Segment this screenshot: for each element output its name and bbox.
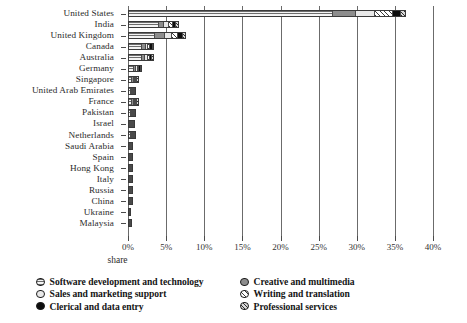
bar-row[interactable] — [128, 207, 440, 218]
y-axis-tick-mark — [121, 69, 126, 70]
y-axis-tick-mark — [121, 91, 126, 92]
bar-row[interactable] — [128, 163, 440, 174]
bar-row[interactable] — [128, 41, 440, 52]
bars-layer — [128, 8, 440, 234]
stacked-bar[interactable] — [128, 21, 179, 29]
legend-column-2: Creative and multimedia Writing and tran… — [240, 276, 355, 322]
stacked-bar[interactable] — [128, 142, 133, 150]
bar-segment[interactable] — [393, 11, 401, 17]
bar-row[interactable] — [128, 118, 440, 129]
bar-segment[interactable] — [132, 165, 133, 171]
gray-circle-icon — [240, 278, 249, 287]
bar-row[interactable] — [128, 107, 440, 118]
stacked-bar[interactable] — [128, 219, 132, 227]
stacked-bar[interactable] — [128, 87, 136, 95]
bar-row[interactable] — [128, 185, 440, 196]
bar-row[interactable] — [128, 196, 440, 207]
x-axis-tick-label: 5% — [160, 242, 172, 252]
bar-segment[interactable] — [129, 44, 142, 50]
bar-segment[interactable] — [129, 55, 142, 61]
bar-segment[interactable] — [356, 11, 375, 17]
x-axis-tick-mark — [281, 236, 282, 241]
y-axis-tick-label: Italy — [0, 174, 118, 185]
bar-segment[interactable] — [131, 220, 132, 226]
legend-item-label: Clerical and data entry — [50, 301, 144, 312]
bar-row[interactable] — [128, 63, 440, 74]
bar-segment[interactable] — [183, 33, 185, 39]
stacked-bar[interactable] — [128, 10, 406, 18]
bar-segment[interactable] — [165, 33, 172, 39]
stacked-bar[interactable] — [128, 43, 154, 51]
bar-segment[interactable] — [129, 33, 155, 39]
bar-row[interactable] — [128, 130, 440, 141]
bar-row[interactable] — [128, 141, 440, 152]
y-axis-tick-mark — [121, 223, 126, 224]
legend-item[interactable]: Writing and translation — [240, 288, 355, 300]
bar-row[interactable] — [128, 8, 440, 19]
legend-item-label: Sales and marketing support — [50, 288, 167, 299]
stacked-bar[interactable] — [128, 32, 186, 40]
bar-row[interactable] — [128, 96, 440, 107]
stacked-bar[interactable] — [128, 208, 131, 216]
legend-item[interactable]: Creative and multimedia — [240, 276, 355, 288]
legend-item-label: Professional services — [254, 301, 337, 312]
legend-item[interactable]: Professional services — [240, 300, 355, 312]
legend-item-label: Software development and technology — [50, 276, 204, 287]
legend-item[interactable]: Clerical and data entry — [36, 300, 240, 312]
bar-row[interactable] — [128, 85, 440, 96]
y-axis-labels: United StatesIndiaUnited KingdomCanadaAu… — [0, 8, 118, 229]
y-axis-tick-label: United Kingdom — [0, 30, 118, 41]
bar-segment[interactable] — [155, 33, 165, 39]
stacked-bar[interactable] — [128, 153, 133, 161]
legend-column-1: Software development and technology Sale… — [36, 276, 240, 322]
bar-segment[interactable] — [375, 11, 393, 17]
y-axis-tick-label: Singapore — [0, 74, 118, 85]
stacked-bar[interactable] — [128, 186, 133, 194]
stacked-bar[interactable] — [128, 175, 133, 183]
bar-segment[interactable] — [141, 66, 142, 72]
bar-row[interactable] — [128, 52, 440, 63]
stacked-bar[interactable] — [128, 65, 142, 73]
y-axis-tick-mark — [121, 36, 126, 37]
stacked-bar[interactable] — [128, 131, 136, 139]
bar-row[interactable] — [128, 218, 440, 229]
x-axis-tick-mark — [204, 236, 205, 241]
bar-row[interactable] — [128, 174, 440, 185]
bar-segment[interactable] — [153, 44, 154, 50]
bar-row[interactable] — [128, 19, 440, 30]
cross-hatch-circle-icon — [240, 302, 249, 311]
y-axis-tick-label: Ukraine — [0, 207, 118, 218]
stacked-bar[interactable] — [128, 120, 135, 128]
x-axis-tick-mark — [395, 236, 396, 241]
bar-segment[interactable] — [132, 187, 133, 193]
legend-item[interactable]: Software development and technology — [36, 276, 240, 288]
y-axis-tick-mark — [121, 102, 126, 103]
bar-segment[interactable] — [132, 198, 133, 204]
bar-segment[interactable] — [401, 11, 406, 17]
bar-segment[interactable] — [176, 22, 177, 28]
x-axis-tick-label: 10% — [196, 242, 213, 252]
chart-root: United StatesIndiaUnited KingdomCanadaAu… — [0, 0, 467, 323]
y-axis-tick-label: Spain — [0, 152, 118, 163]
bar-segment[interactable] — [132, 176, 133, 182]
bar-segment[interactable] — [333, 11, 356, 17]
stacked-bar[interactable] — [128, 164, 133, 172]
x-axis-tick-label: 30% — [349, 242, 366, 252]
bar-segment[interactable] — [132, 154, 133, 160]
stacked-bar[interactable] — [128, 197, 133, 205]
bar-row[interactable] — [128, 30, 440, 41]
y-axis-tick-label: Canada — [0, 41, 118, 52]
stacked-bar[interactable] — [128, 54, 154, 62]
bar-row[interactable] — [128, 152, 440, 163]
bar-row[interactable] — [128, 74, 440, 85]
stacked-bar[interactable] — [128, 109, 136, 117]
x-axis-title-label: share — [107, 255, 127, 265]
legend-item[interactable]: Sales and marketing support — [36, 288, 240, 300]
bar-segment[interactable] — [129, 11, 333, 17]
chart-legend: Software development and technology Sale… — [0, 276, 467, 322]
bar-segment[interactable] — [129, 22, 159, 28]
stacked-bar[interactable] — [128, 76, 139, 84]
bar-segment[interactable] — [152, 55, 153, 61]
x-axis-labels: 0%5%10%15%20%25%30%35%40% — [0, 242, 467, 256]
stacked-bar[interactable] — [128, 98, 139, 106]
